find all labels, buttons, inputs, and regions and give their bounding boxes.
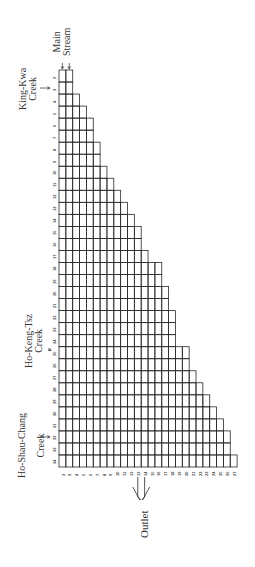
- grid-cell: [73, 443, 80, 455]
- grid-row-9: [59, 154, 100, 166]
- grid-cell: [128, 226, 135, 238]
- grid-cell: [114, 202, 121, 214]
- row-label: 19: [52, 279, 57, 283]
- grid-cell: [93, 407, 100, 419]
- grid-cell: [128, 455, 135, 467]
- column-label: 13: [136, 472, 141, 476]
- grid-cell: [93, 166, 100, 178]
- grid-cell: [182, 395, 189, 407]
- grid-cell: [134, 238, 141, 250]
- grid-cell: [107, 262, 114, 274]
- grid-cell: [93, 395, 100, 407]
- grid-cell: [107, 214, 114, 226]
- grid-cell: [114, 371, 121, 383]
- grid-cell: [80, 190, 87, 202]
- grid-cell: [121, 323, 128, 335]
- grid-cell: [121, 275, 128, 287]
- grid-cell: [73, 154, 80, 166]
- grid-cell: [107, 359, 114, 371]
- grid-cell: [114, 383, 121, 395]
- row-label: 28: [52, 387, 57, 391]
- grid-cell: [100, 431, 107, 443]
- grid-cell: [107, 190, 114, 202]
- grid-cell: [128, 395, 135, 407]
- grid-cell: [114, 335, 121, 347]
- grid-cell: [59, 142, 66, 154]
- grid-cell: [148, 371, 155, 383]
- grid-cell: [100, 395, 107, 407]
- grid-cell: [66, 407, 73, 419]
- grid-cell: [93, 299, 100, 311]
- grid-cell: [86, 407, 93, 419]
- grid-cell: [230, 455, 237, 467]
- outlet-label-text: Outlet: [138, 511, 150, 539]
- column-label: 12: [129, 472, 134, 476]
- grid-cell: [66, 443, 73, 455]
- staircase-grid: [0, 0, 255, 567]
- grid-cell: [66, 359, 73, 371]
- grid-cell: [59, 154, 66, 166]
- grid-cell: [175, 407, 182, 419]
- grid-cell: [128, 262, 135, 274]
- grid-cell: [203, 419, 210, 431]
- grid-cell: [189, 455, 196, 467]
- column-label: 20: [184, 472, 189, 476]
- grid-cell: [169, 419, 176, 431]
- grid-cell: [162, 383, 169, 395]
- grid-cell: [100, 311, 107, 323]
- grid-cell: [100, 250, 107, 262]
- grid-cell: [196, 383, 203, 395]
- grid-cell: [114, 395, 121, 407]
- grid-cell: [121, 371, 128, 383]
- grid-cell: [93, 214, 100, 226]
- grid-cell: [59, 202, 66, 214]
- grid-cell: [114, 299, 121, 311]
- grid-cell: [107, 443, 114, 455]
- grid-cell: [175, 455, 182, 467]
- grid-cell: [196, 431, 203, 443]
- grid-cell: [189, 395, 196, 407]
- row-label: 3: [52, 89, 57, 91]
- grid-cell: [80, 323, 87, 335]
- grid-cell: [66, 166, 73, 178]
- grid-cell: [66, 142, 73, 154]
- grid-cell: [169, 335, 176, 347]
- grid-cell: [73, 371, 80, 383]
- grid-cell: [100, 383, 107, 395]
- grid-cell: [93, 250, 100, 262]
- grid-cell: [134, 250, 141, 262]
- grid-cell: [114, 311, 121, 323]
- grid-cell: [169, 455, 176, 467]
- grid-cell: [169, 443, 176, 455]
- grid-row-23: [59, 323, 175, 335]
- grid-cell: [141, 395, 148, 407]
- grid-cell: [86, 419, 93, 431]
- grid-cell: [155, 299, 162, 311]
- grid-cell: [59, 166, 66, 178]
- grid-cell: [155, 359, 162, 371]
- row-label: 15: [52, 231, 57, 235]
- grid-cell: [59, 214, 66, 226]
- grid-cell: [86, 202, 93, 214]
- column-label: 19: [177, 472, 182, 476]
- grid-cell: [73, 455, 80, 467]
- grid-cell: [66, 238, 73, 250]
- grid-cell: [100, 226, 107, 238]
- grid-cell: [189, 383, 196, 395]
- grid-cell: [66, 419, 73, 431]
- grid-cell: [217, 455, 224, 467]
- grid-cell: [114, 431, 121, 443]
- ho-shau-chang-creek-label: Ho-Shau-Chang Creek: [12, 413, 50, 478]
- grid-cell: [59, 323, 66, 335]
- grid-cell: [59, 190, 66, 202]
- grid-cell: [169, 395, 176, 407]
- grid-cell: [114, 238, 121, 250]
- grid-cell: [80, 166, 87, 178]
- grid-cell: [66, 383, 73, 395]
- grid-cell: [73, 335, 80, 347]
- grid-cell: [114, 455, 121, 467]
- grid-cell: [73, 238, 80, 250]
- grid-cell: [93, 455, 100, 467]
- row-label: 16: [52, 243, 57, 247]
- grid-cell: [121, 455, 128, 467]
